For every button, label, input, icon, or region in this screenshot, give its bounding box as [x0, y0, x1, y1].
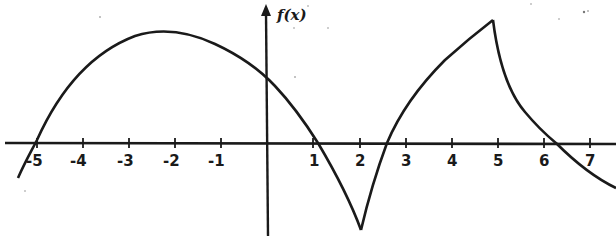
tick-label: 3: [401, 152, 411, 170]
x-tick-labels: -5 -4 -3 -2 -1 1 2 3 4 5 6 7: [26, 152, 595, 170]
tick-label: -1: [208, 152, 225, 170]
function-graph: f(x) -5 -4 -3 -2 -1 1 2 3 4 5 6 7: [0, 0, 616, 240]
curve-left-arc: [18, 31, 361, 230]
scan-specks: [24, 3, 589, 191]
curve-right-decay: [493, 20, 616, 188]
tick-label: -2: [163, 152, 180, 170]
y-axis-arrow-icon: [261, 4, 271, 16]
tick-label: 6: [539, 152, 549, 170]
tick-label: 2: [355, 152, 365, 170]
tick-label: 7: [585, 152, 595, 170]
tick-label: 4: [447, 152, 457, 170]
y-axis: [266, 12, 268, 236]
tick-label: 5: [493, 152, 503, 170]
curve-middle-rise: [361, 20, 493, 230]
y-axis-label: f(x): [276, 6, 307, 24]
tick-label: -4: [70, 152, 87, 170]
x-axis: [5, 143, 616, 144]
tick-label: 1: [309, 152, 319, 170]
tick-label: -3: [117, 152, 134, 170]
